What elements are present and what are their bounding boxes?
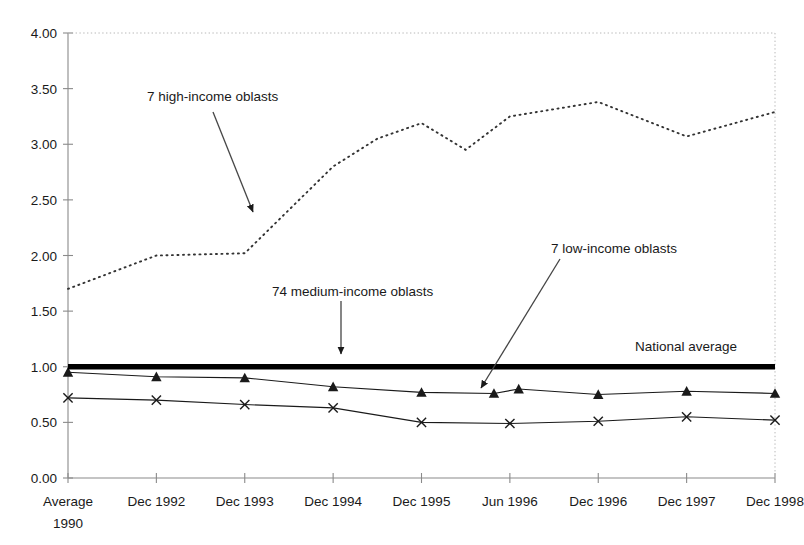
annotation-label-medium-income: 74 medium-income oblasts [272,284,434,299]
x-axis-tick-label: Dec 1996 [569,494,627,509]
y-axis-tick-group: 4.003.503.002.502.001.501.000.500.00 [31,26,73,486]
y-axis-tick-label: 3.50 [31,82,57,97]
x-axis-tick-label: Average [43,494,93,509]
y-axis-tick-label: 4.00 [31,26,57,41]
x-axis-tick-label: Dec 1998 [746,494,804,509]
y-axis-tick-label: 0.50 [31,415,57,430]
x-axis-tick-label: Dec 1995 [393,494,451,509]
y-axis-tick-label: 3.00 [31,137,57,152]
chart-container: 4.003.503.002.502.001.501.000.500.00 Ave… [0,0,804,545]
x-axis-tick-label: Dec 1994 [304,494,362,509]
y-axis-tick-label: 0.00 [31,471,57,486]
y-axis-tick-label: 2.50 [31,193,57,208]
x-axis-tick-label: Dec 1992 [127,494,185,509]
y-axis-tick-label: 2.00 [31,249,57,264]
annotation-label-high-income: 7 high-income oblasts [147,89,279,104]
x-axis-tick-label: Dec 1993 [216,494,274,509]
x-axis-tick-label-line2: 1990 [53,516,83,531]
income-disparity-line-chart: 4.003.503.002.502.001.501.000.500.00 Ave… [0,0,804,545]
y-axis-tick-label: 1.00 [31,360,57,375]
annotation-label-low-income: 7 low-income oblasts [551,241,677,256]
x-axis-tick-label: Jun 1996 [482,494,538,509]
y-axis-tick-label: 1.50 [31,304,57,319]
x-axis-tick-group: Average1990Dec 1992Dec 1993Dec 1994Dec 1… [43,473,804,531]
x-axis-tick-label: Dec 1997 [658,494,716,509]
annotation-label-national-average: National average [635,339,737,354]
